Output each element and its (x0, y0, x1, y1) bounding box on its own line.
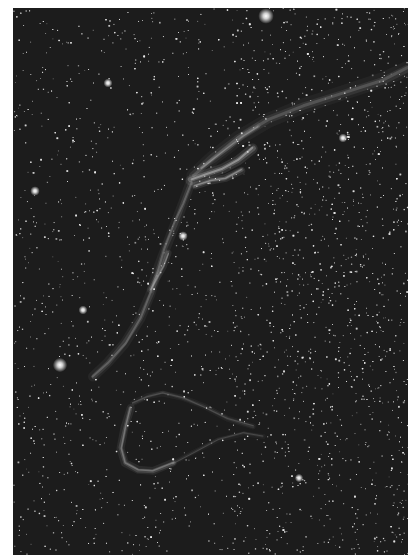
starfield-canvas (13, 8, 408, 555)
nebula-photo (13, 8, 408, 555)
